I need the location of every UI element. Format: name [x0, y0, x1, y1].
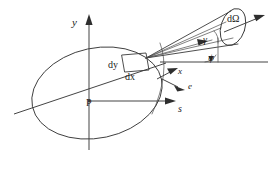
gamma-angle-label: γ [203, 35, 207, 45]
e-direction-arrow [162, 79, 185, 92]
point-p-label: P [86, 98, 92, 108]
dy-label: dy [108, 60, 118, 70]
e-direction-label: e [188, 82, 192, 91]
radiative-transfer-diagram: y s x e P dy dx γ ψ dΩ [0, 0, 273, 170]
s-axis-label: s [178, 104, 182, 114]
volume-element-dx-dy [122, 53, 149, 72]
dx-label: dx [125, 72, 135, 82]
x-direction-label: x [178, 67, 182, 76]
psi-angle-label: ψ [208, 53, 214, 63]
source-region-ellipse [23, 35, 171, 150]
s-axis [89, 98, 176, 105]
y-axis [85, 14, 92, 150]
d-omega-label: dΩ [227, 14, 239, 24]
y-axis-label: y [72, 17, 77, 28]
diagram-canvas [0, 0, 273, 170]
solid-angle-aperture [216, 5, 251, 49]
